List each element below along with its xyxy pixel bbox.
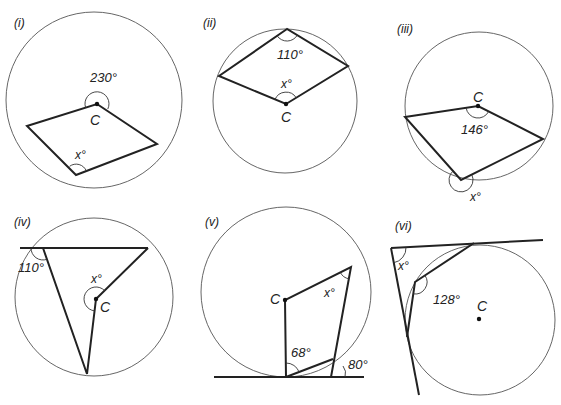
given-angle: 128° bbox=[433, 292, 460, 307]
centre-label: C bbox=[270, 291, 281, 307]
circle-theorems-figure: (i) 230° C x° (ii) 110° x° C (iii) C 146… bbox=[0, 0, 561, 405]
unknown-angle: x° bbox=[90, 272, 102, 286]
given-angle-80: 80° bbox=[348, 357, 368, 372]
circle bbox=[15, 218, 173, 376]
given-angle-68: 68° bbox=[291, 345, 311, 360]
unknown-angle: x° bbox=[74, 148, 86, 162]
diagram-vi: (vi) x° 128° C bbox=[391, 219, 555, 395]
angle-arc-x bbox=[275, 92, 296, 99]
diagram-label: (iv) bbox=[14, 215, 31, 229]
angle-arc-110 bbox=[277, 35, 297, 41]
centre-point bbox=[94, 297, 98, 301]
diagram-iv: (iv) 110° x° C bbox=[14, 215, 173, 376]
angle-arc-x bbox=[340, 272, 349, 278]
centre-label: C bbox=[473, 89, 484, 105]
unknown-angle: x° bbox=[469, 190, 481, 204]
unknown-angle: x° bbox=[323, 286, 335, 300]
diagram-label: (v) bbox=[205, 215, 219, 229]
diagram-i: (i) 230° C x° bbox=[6, 12, 182, 188]
diagram-label: (vi) bbox=[395, 219, 412, 233]
chord bbox=[286, 359, 333, 377]
given-angle: 110° bbox=[18, 260, 44, 275]
centre-label: C bbox=[90, 112, 101, 128]
given-angle: 110° bbox=[277, 47, 303, 62]
centre-label: C bbox=[281, 109, 292, 125]
angle-arc-x bbox=[449, 171, 473, 192]
centre-label: C bbox=[100, 299, 111, 315]
circle bbox=[6, 12, 182, 188]
given-angle: 146° bbox=[461, 122, 488, 137]
centre-point bbox=[284, 102, 288, 106]
diagram-ii: (ii) 110° x° C bbox=[203, 16, 357, 173]
unknown-angle: x° bbox=[280, 77, 292, 91]
centre-label: C bbox=[477, 298, 488, 314]
diagram-label: (i) bbox=[14, 16, 25, 30]
diagram-v: (v) C 68° 80° x° bbox=[201, 207, 371, 377]
unknown-angle: x° bbox=[397, 259, 409, 273]
diagram-label: (ii) bbox=[203, 16, 216, 30]
angle-arc-80 bbox=[343, 366, 346, 377]
centre-point bbox=[283, 298, 287, 302]
given-angle: 230° bbox=[89, 70, 117, 85]
centre-point bbox=[95, 102, 99, 106]
chord-path bbox=[285, 267, 351, 377]
diagram-iii: (iii) C 146° x° bbox=[397, 22, 553, 204]
angle-arc-68 bbox=[286, 363, 299, 372]
centre-point bbox=[477, 317, 481, 321]
chord-path bbox=[43, 248, 148, 374]
diagram-label: (iii) bbox=[397, 22, 413, 36]
chord-path bbox=[407, 243, 474, 337]
